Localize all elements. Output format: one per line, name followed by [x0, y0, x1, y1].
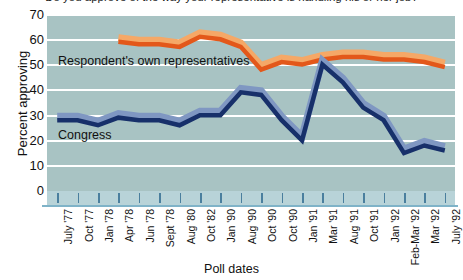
x-axis-tick — [363, 193, 365, 203]
x-axis-strip — [47, 191, 455, 205]
gridline-70 — [47, 14, 455, 16]
chart-title: Do you approve of the way your represent… — [0, 0, 463, 3]
xtick-label: Aug '90 — [246, 209, 258, 244]
gridline-10 — [47, 165, 455, 167]
plot-area — [47, 14, 455, 191]
xtick-label: July '77 — [62, 209, 74, 244]
xtick-label: Oct '82 — [205, 209, 217, 242]
gridline-30 — [47, 115, 455, 117]
xtick-label: Sept '78 — [164, 209, 176, 247]
gridline-40 — [47, 89, 455, 91]
xtick-label: July '92 — [450, 209, 462, 244]
xtick-label: Aug '91 — [348, 209, 360, 244]
x-axis-tick — [302, 193, 304, 203]
series-label-congress: Congress — [58, 128, 112, 142]
x-axis-tick — [57, 193, 59, 203]
x-axis-tick — [200, 193, 202, 203]
x-axis-title: Poll dates — [0, 262, 463, 276]
xtick-label: Feb-Mar '92 — [409, 209, 421, 265]
xtick-label: Mar '92 — [429, 209, 441, 244]
x-axis-tick — [343, 193, 345, 203]
x-axis-tick — [180, 193, 182, 203]
chart-figure: Do you approve of the way your represent… — [0, 0, 463, 280]
x-axis-tick — [118, 193, 120, 203]
x-axis-tick — [404, 193, 406, 203]
xtick-label: Jan '90 — [225, 209, 237, 243]
x-axis-tick — [98, 193, 100, 203]
series-label-own-representatives: Respondent's own representatives — [58, 54, 249, 68]
x-axis-tick — [282, 193, 284, 203]
x-axis-tick — [445, 193, 447, 203]
x-axis-tick — [139, 193, 141, 203]
x-axis-tick — [159, 193, 161, 203]
xtick-label: Mar '91 — [327, 209, 339, 244]
x-axis-line — [42, 205, 458, 207]
x-axis-tick — [241, 193, 243, 203]
x-axis-tick — [322, 193, 324, 203]
xtick-label: Aug '80 — [185, 209, 197, 244]
xtick-label: Oct '77 — [83, 209, 95, 242]
y-axis-title: Percent approving — [15, 4, 30, 204]
xtick-label: Jan '92 — [389, 209, 401, 243]
x-axis-tick — [384, 193, 386, 203]
x-axis-tick — [78, 193, 80, 203]
xtick-label: Jun '78 — [144, 209, 156, 243]
x-axis-tick — [261, 193, 263, 203]
x-axis-tick — [220, 193, 222, 203]
xtick-label: Jan '78 — [103, 209, 115, 243]
x-axis-tick — [424, 193, 426, 203]
xtick-label: Oct '90 — [266, 209, 278, 242]
xtick-label: Oct '91 — [368, 209, 380, 242]
gridline-60 — [47, 39, 455, 41]
xtick-label: Jan '91 — [307, 209, 319, 243]
xtick-label: Apr '78 — [123, 209, 135, 242]
xtick-label: Oct '90 — [287, 209, 299, 242]
